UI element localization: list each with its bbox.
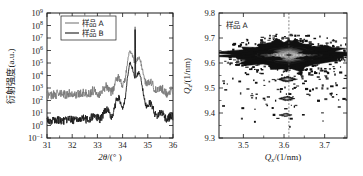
- rsm-speckle-pixel: [280, 88, 283, 90]
- curve-sample-b: [47, 30, 173, 125]
- rsm-speckle-pixel: [334, 73, 336, 75]
- rsm-speckle-pixel: [338, 99, 339, 101]
- rsm-speckle-pixel: [293, 83, 295, 84]
- rsm-speckle-pixel: [272, 37, 275, 39]
- rsm-speckle-pixel: [264, 38, 265, 40]
- rsm-speckle-pixel: [329, 68, 331, 69]
- y-axis-title-right: Qz/(1/nm): [182, 58, 193, 94]
- rsm-speckle-pixel: [302, 114, 305, 116]
- rsm-speckle-pixel: [276, 34, 278, 35]
- rsm-speckle-pixel: [317, 100, 320, 102]
- y-tick-label-left: 102: [32, 95, 44, 105]
- rsm-speckle-pixel: [269, 38, 271, 40]
- rsm-speckle-pixel: [335, 82, 336, 84]
- rsm-speckle-pixel: [246, 74, 249, 76]
- rsm-speckle-pixel: [263, 80, 264, 82]
- rsm-speckle-pixel: [317, 76, 320, 78]
- rsm-speckle-pixel: [345, 75, 347, 77]
- y-tick-label-left: 106: [32, 45, 44, 55]
- rsm-speckle-pixel: [256, 71, 258, 73]
- y-tick-label-left: 10−1: [28, 133, 43, 143]
- rsm-speckle-pixel: [305, 88, 308, 90]
- rsm-speckle-pixel: [294, 87, 296, 89]
- rsm-speckle-pixel: [318, 67, 320, 69]
- rsm-speckle-pixel: [314, 65, 317, 67]
- rsm-speckle-pixel: [229, 63, 230, 65]
- x-tick-label-right: 3.7: [319, 140, 330, 150]
- rsm-speckle-pixel: [324, 68, 326, 69]
- rsm-speckle-pixel: [253, 79, 254, 81]
- rsm-speckle-pixel: [262, 42, 265, 43]
- rsm-speckle-pixel: [233, 59, 236, 60]
- rsm-speckle-pixel: [322, 84, 324, 86]
- x-tick-label-right: 3.6: [279, 140, 290, 150]
- rsm-contour-svg: 9.39.49.59.69.79.8 3.53.63.7 样品 A Qx/(1/…: [181, 0, 363, 176]
- rsm-speckle-pixel: [326, 77, 329, 79]
- rsm-speckle-pixel: [331, 95, 332, 96]
- rsm-speckle-pixel: [333, 66, 335, 67]
- rsm-speckle-pixel: [345, 43, 346, 45]
- rsm-speckle-pixel: [302, 40, 304, 42]
- x-tick-label-left: 32: [68, 140, 77, 150]
- rsm-speckle-pixel: [312, 88, 314, 90]
- rsm-speckle-pixel: [236, 61, 239, 63]
- rsm-speckle-pixel: [330, 85, 334, 87]
- rsm-speckle-pixel: [294, 35, 296, 37]
- rsm-speckle-pixel: [255, 82, 258, 84]
- rsm-speckle-pixel: [296, 86, 299, 87]
- rsm-speckle-pixel: [261, 37, 264, 38]
- rsm-speckle-pixel: [332, 45, 334, 47]
- rsm-speckle-pixel: [338, 60, 341, 62]
- rsm-speckle-pixel: [330, 42, 332, 44]
- rsm-speckle-pixel: [228, 62, 229, 63]
- rsm-speckle-pixel: [272, 79, 275, 80]
- rsm-speckle-pixel: [277, 89, 280, 90]
- rsm-speckle-pixel: [332, 96, 334, 98]
- rsm-speckle-pixel: [284, 108, 287, 109]
- legend-label-sample-a: 样品 A: [82, 18, 104, 28]
- rsm-speckle-pixel: [313, 38, 316, 39]
- rsm-speckle-pixel: [307, 35, 310, 37]
- rsm-speckle-pixel: [267, 40, 270, 41]
- rsm-speckle-pixel: [292, 88, 293, 90]
- rsm-speckle-pixel: [318, 43, 320, 44]
- x-axis-tick-labels-left: 313233343536: [43, 140, 178, 150]
- rsm-speckle-pixel: [232, 44, 235, 46]
- rsm-speckle-pixel: [304, 80, 307, 82]
- rsm-speckle-pixel: [245, 67, 248, 68]
- rsm-speckle-pixel: [289, 34, 292, 36]
- rsm-speckle-pixel: [333, 71, 334, 72]
- rsm-speckle-pixel: [308, 73, 309, 75]
- rsm-speckle-pixel: [329, 64, 332, 66]
- x-tick-label-right: 3.5: [238, 140, 249, 150]
- rsm-speckle-pixel: [336, 46, 339, 47]
- rsm-speckle-pixel: [290, 118, 293, 120]
- rsm-speckle-pixel: [319, 72, 320, 74]
- rsm-speckle-pixel: [250, 95, 253, 96]
- rsm-speckle-pixel: [272, 107, 274, 109]
- rsm-speckle-pixel: [319, 79, 321, 80]
- y-tick-label-left: 107: [32, 33, 44, 43]
- y-tick-label-left: 108: [32, 20, 44, 30]
- y-tick-label-left: 103: [32, 83, 44, 93]
- rsm-speckle-pixel: [321, 112, 324, 113]
- legend-left: 样品 A 样品 B: [61, 16, 116, 40]
- rsm-speckle-pixel: [324, 70, 327, 72]
- rsm-speckle-pixel: [309, 41, 312, 43]
- rsm-speckle-pixel: [222, 105, 225, 107]
- rsm-speckle-pixel: [245, 72, 247, 74]
- rsm-speckle-pixel: [344, 59, 345, 61]
- rsm-speckle-pixel: [264, 66, 266, 68]
- rsm-speckle-pixel: [341, 59, 343, 61]
- rsm-speckle-pixel: [224, 89, 227, 90]
- y-axis-title-left: 衍射强度(a.u.): [5, 49, 16, 104]
- x-axis-tick-labels-right: 3.53.63.7: [238, 140, 330, 150]
- rsm-speckle-pixel: [324, 75, 327, 76]
- rsm-speckle-pixel: [334, 61, 337, 63]
- rsm-speckle-pixel: [241, 42, 244, 43]
- rsm-speckle-pixel: [245, 43, 247, 45]
- rsm-speckle-pixel: [240, 44, 242, 46]
- rsm-speckle-pixel: [332, 40, 335, 41]
- rsm-speckle-pixel: [325, 43, 328, 44]
- rsm-speckle-pixel: [254, 69, 256, 70]
